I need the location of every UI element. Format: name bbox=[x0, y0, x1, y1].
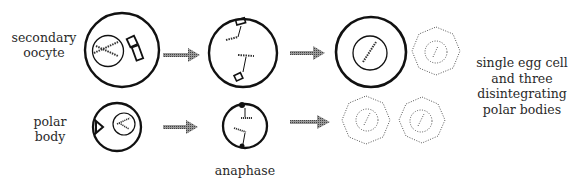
disintegrating-polar-body bbox=[399, 97, 445, 143]
polar-body-cell bbox=[93, 103, 141, 151]
disintegrating-polar-body bbox=[412, 27, 460, 75]
meiosis-diagram bbox=[0, 0, 582, 187]
egg-cell bbox=[336, 17, 406, 87]
secondary-oocyte-cell bbox=[85, 13, 159, 87]
anaphase-polar-body-cell bbox=[223, 102, 267, 149]
arrow-icon bbox=[290, 46, 325, 60]
arrow-icon bbox=[163, 48, 200, 62]
arrow-icon bbox=[163, 120, 198, 134]
chromosomes-icon bbox=[94, 42, 118, 56]
disintegrating-polar-body bbox=[342, 96, 390, 144]
anaphase-oocyte-cell bbox=[209, 18, 277, 87]
arrow-icon bbox=[290, 115, 330, 129]
polar-body-spindle-icon bbox=[127, 36, 143, 61]
